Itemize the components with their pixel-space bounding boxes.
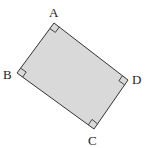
vertex-label-c: C xyxy=(88,133,97,148)
vertex-label-a: A xyxy=(49,5,59,20)
vertex-label-d: D xyxy=(132,72,141,87)
rectangle-diagram: A B D C xyxy=(0,0,149,148)
rectangle-abcd xyxy=(17,23,128,129)
vertex-label-b: B xyxy=(3,67,12,82)
